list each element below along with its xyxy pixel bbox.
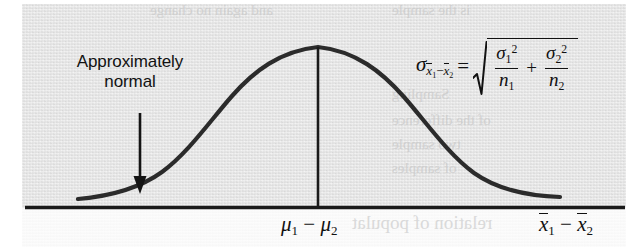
equals-sign: = — [457, 54, 469, 79]
sigma-subscript-group: x1−x2 — [426, 63, 453, 78]
sigma-sub-minus: − — [436, 63, 443, 78]
sigma-sub-index-2: 2 — [449, 71, 453, 80]
xbar-subscript-1: 1 — [548, 223, 555, 238]
sigma-symbol-lhs: σ — [416, 52, 426, 76]
radical-sign-icon — [473, 40, 487, 96]
mu-subscript-1: 1 — [292, 223, 299, 238]
sigma-term-2-exponent: 2 — [561, 43, 567, 56]
xbar-subscript-2: 2 — [587, 223, 594, 238]
formula-lhs: σx1−x2 — [416, 52, 453, 80]
callout-approximately-normal: Approximately normal — [40, 52, 220, 92]
minus-operator-right: − — [560, 212, 572, 236]
axis-label-mu1-minus-mu2: μ1 − μ2 — [281, 212, 337, 239]
n-term-2-subscript: 2 — [558, 79, 564, 92]
fraction-1-numerator: σ12 — [492, 43, 521, 67]
fraction-2-denominator: n2 — [545, 68, 568, 93]
mu-symbol-1: μ — [281, 212, 292, 236]
xbar-symbol-1: x — [539, 212, 548, 236]
n-symbol-term-1: n — [499, 69, 509, 90]
callout-line-1: Approximately — [40, 52, 220, 72]
fraction-1-denominator: n1 — [495, 68, 518, 93]
sigma-symbol-term-1: σ — [496, 42, 505, 63]
figure-container: and again no change is the sample Sampli… — [0, 0, 641, 247]
callout-line-2: normal — [40, 72, 220, 92]
fraction-2-numerator: σ22 — [542, 43, 571, 67]
fraction-term-1: σ12 n1 — [492, 43, 521, 92]
axis-label-xbar1-minus-xbar2: x1 − x2 — [539, 212, 593, 239]
minus-operator-center: − — [303, 212, 315, 236]
mu-subscript-2: 2 — [331, 223, 338, 238]
mu-symbol-2: μ — [320, 212, 331, 236]
fraction-term-2: σ22 n2 — [542, 43, 571, 92]
sigma-term-1-exponent: 2 — [511, 43, 517, 56]
standard-error-formula: σx1−x2 = σ12 n1 + σ22 n2 — [416, 38, 578, 94]
plus-operator: + — [526, 57, 537, 79]
n-symbol-term-2: n — [549, 69, 559, 90]
square-root: σ12 n1 + σ22 n2 — [473, 38, 578, 94]
n-term-1-subscript: 1 — [509, 79, 515, 92]
xbar-symbol-2: x — [577, 212, 586, 236]
radicand: σ12 n1 + σ22 n2 — [487, 38, 578, 94]
